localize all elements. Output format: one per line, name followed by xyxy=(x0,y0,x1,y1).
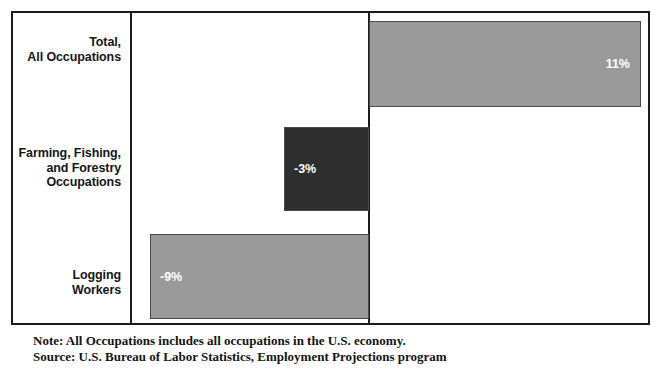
category-label-line-2: and Forestry xyxy=(46,161,121,175)
bar-farming-fishing-forestry: -3% xyxy=(284,127,369,211)
plot-area: 11% -3% -9% xyxy=(132,13,648,323)
bar-logging-workers: -9% xyxy=(150,234,369,319)
chart-frame: Total, All Occupations Farming, Fishing,… xyxy=(11,11,650,325)
category-label-line-1: Logging xyxy=(72,268,121,282)
category-label-logging-workers: Logging Workers xyxy=(9,268,121,297)
category-label-farming-fishing-forestry: Farming, Fishing, and Forestry Occupatio… xyxy=(9,146,121,190)
footnote-source: Source: U.S. Bureau of Labor Statistics,… xyxy=(11,349,650,365)
category-label-line-2: Workers xyxy=(72,283,121,297)
category-label-line-2: All Occupations xyxy=(27,50,121,64)
footnote-note: Note: All Occupations includes all occup… xyxy=(11,333,650,349)
category-label-line-3: Occupations xyxy=(46,175,121,189)
category-label-column: Total, All Occupations Farming, Fishing,… xyxy=(13,13,132,323)
bar-value-label: -9% xyxy=(160,270,182,284)
footnote-block: Note: All Occupations includes all occup… xyxy=(11,333,650,365)
category-label-line-1: Total, xyxy=(89,35,121,49)
bar-value-label: -3% xyxy=(294,162,316,176)
category-label-line-1: Farming, Fishing, xyxy=(19,146,121,160)
bar-total-all-occupations: 11% xyxy=(369,21,641,107)
category-label-total-all-occupations: Total, All Occupations xyxy=(9,35,121,64)
bar-value-label: 11% xyxy=(606,57,630,71)
